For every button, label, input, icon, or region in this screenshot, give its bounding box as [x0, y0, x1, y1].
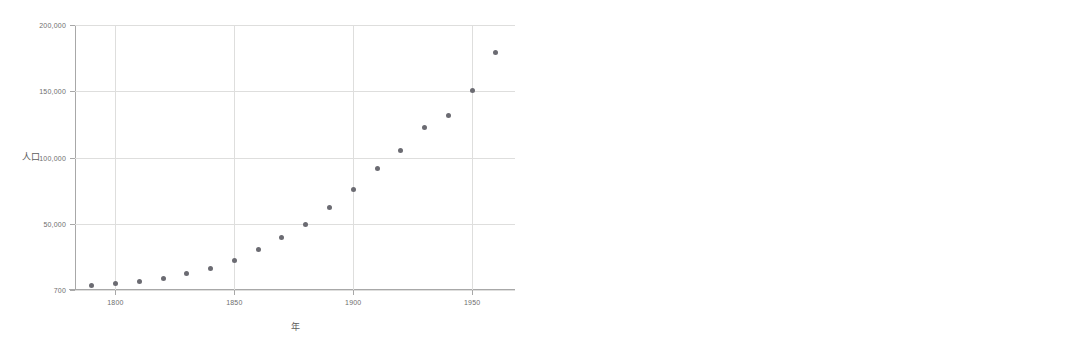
x-tick-mark [115, 290, 116, 295]
y-tick-mark [70, 224, 75, 225]
data-point [208, 266, 213, 271]
data-point [351, 187, 356, 192]
data-point [184, 271, 189, 276]
data-point [327, 205, 332, 210]
data-point [113, 281, 118, 286]
population-plot-area: 人口 年 70050,000100,000150,000200,00018001… [75, 25, 515, 290]
data-point [422, 125, 427, 130]
y-gridline [75, 91, 515, 92]
x-tick-mark [472, 290, 473, 295]
y-tick-label: 100,000 [39, 154, 66, 161]
x-tick-mark [234, 290, 235, 295]
x-gridline [234, 25, 235, 290]
data-point [137, 279, 142, 284]
data-point [161, 276, 166, 281]
x-tick-mark [353, 290, 354, 295]
data-point [375, 166, 380, 171]
y-tick-mark [70, 91, 75, 92]
data-point [446, 113, 451, 118]
y-axis-title: 人口 [22, 153, 34, 162]
x-axis-title: 年 [291, 320, 300, 333]
y-tick-label: 150,000 [39, 88, 66, 95]
data-point [279, 235, 284, 240]
y-tick-label: 50,000 [43, 221, 66, 228]
residuals-chart-panel: Residuals 年 10.005.00.00-5.00-10.0018001… [543, 0, 1086, 341]
x-tick-label: 1850 [226, 299, 242, 306]
y-gridline [75, 158, 515, 159]
data-point [303, 222, 308, 227]
data-point [398, 148, 403, 153]
data-point [232, 258, 237, 263]
x-tick-label: 1950 [464, 299, 480, 306]
x-tick-label: 1800 [107, 299, 123, 306]
x-tick-label: 1900 [345, 299, 361, 306]
population-chart-panel: 人口 年 70050,000100,000150,000200,00018001… [0, 0, 543, 341]
y-gridline [75, 224, 515, 225]
y-gridline [75, 25, 515, 26]
data-point [470, 88, 475, 93]
y-tick-mark [70, 158, 75, 159]
y-gridline [75, 290, 515, 291]
data-point [89, 283, 94, 288]
y-tick-label: 200,000 [39, 22, 66, 29]
y-tick-label: 700 [54, 287, 66, 294]
figure-row: 人口 年 70050,000100,000150,000200,00018001… [0, 0, 1086, 341]
data-point [256, 247, 261, 252]
data-point [493, 50, 498, 55]
y-tick-mark [70, 290, 75, 291]
y-tick-mark [70, 25, 75, 26]
x-gridline [115, 25, 116, 290]
x-gridline [472, 25, 473, 290]
x-gridline [353, 25, 354, 290]
